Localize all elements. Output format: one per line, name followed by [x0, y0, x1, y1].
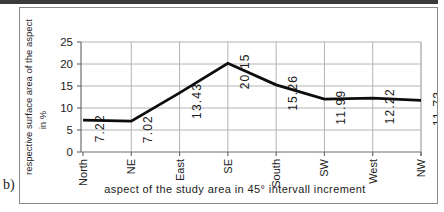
chart-frame: 7.227.0213.4320.1515.2611.9912.2211.7305… — [19, 7, 438, 204]
y-axis-unit-label: in % — [37, 110, 48, 129]
data-label: 11.73 — [431, 91, 437, 126]
data-line — [83, 63, 421, 121]
scanned-figure-page: b) 7.227.0213.4320.1515.2611.9912.2211.7… — [0, 0, 444, 212]
data-label: 11.99 — [334, 90, 348, 125]
y-tick-label: 0 — [67, 146, 73, 158]
x-tick-label: NE — [125, 159, 137, 174]
x-tick-label: NW — [415, 158, 427, 177]
x-tick-label: North — [77, 159, 89, 186]
data-label: 13.43 — [190, 83, 204, 119]
y-axis-title: respective surface area of the aspect — [23, 19, 34, 175]
scan-artifact-top-bar — [0, 0, 438, 4]
data-label: 15.26 — [286, 75, 300, 111]
data-label: 7.22 — [93, 114, 107, 142]
x-axis-title: aspect of the study area in 45° interval… — [104, 183, 365, 195]
figure-label: b) — [3, 177, 15, 193]
y-tick-label: 20 — [60, 58, 73, 70]
aspect-line-chart: 7.227.0213.4320.1515.2611.9912.2211.7305… — [20, 8, 437, 203]
data-label: 12.22 — [383, 88, 397, 124]
y-tick-label: 5 — [67, 124, 73, 136]
x-tick-label: SE — [222, 159, 234, 174]
y-tick-label: 10 — [60, 102, 73, 114]
x-tick-label: East — [174, 159, 186, 181]
y-tick-label: 15 — [60, 80, 73, 92]
x-tick-label: SW — [318, 158, 330, 176]
y-tick-label: 25 — [60, 36, 73, 48]
data-label: 7.02 — [141, 115, 155, 143]
x-tick-label: West — [367, 159, 379, 184]
